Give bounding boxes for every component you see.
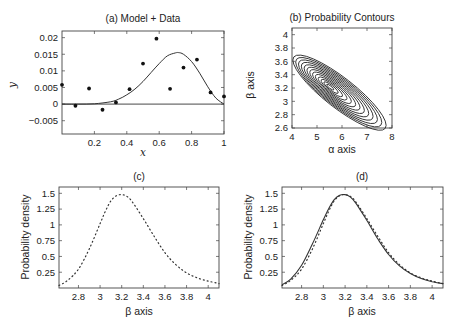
- y-tick-label: 0.005: [34, 82, 58, 93]
- y-tick-label: 3.8: [275, 42, 288, 53]
- x-tick-label: 3.4: [360, 291, 373, 302]
- dotted-density-curve: [59, 195, 219, 286]
- panel-c-ylabel: Probability density: [19, 194, 31, 280]
- x-tick-label: 0.8: [185, 137, 198, 148]
- y-tick-label: 0.75: [260, 235, 279, 246]
- panel-d-density-comparison: (d) 0.250.50.7511.251.5 2.833.23.43.63.8…: [242, 171, 443, 317]
- data-point: [195, 58, 199, 62]
- panel-d-yticks: 0.250.50.7511.251.5: [260, 188, 444, 278]
- contour-line: [285, 45, 395, 140]
- panel-c-yticks: 0.250.50.7511.251.5: [37, 188, 220, 278]
- y-tick-label: 0.02: [40, 32, 59, 43]
- y-tick-label: 0.5: [42, 251, 55, 262]
- data-point: [128, 87, 132, 91]
- y-tick-label: 1.5: [42, 188, 55, 199]
- data-point: [141, 62, 145, 66]
- panel-d-frame: [282, 187, 443, 288]
- x-tick-label: 4: [289, 131, 294, 142]
- panel-c-density: (c) 0.250.50.7511.251.5 2.833.23.43.63.8…: [19, 171, 219, 317]
- x-tick-label: 3.4: [137, 291, 150, 302]
- y-tick-label: 1.25: [37, 203, 56, 214]
- y-tick-label: 2.8: [275, 109, 288, 120]
- panel-a-frame: [62, 31, 224, 134]
- x-tick-label: 4: [206, 291, 211, 302]
- panel-b-probability-contours: (b) Probability Contours 2.62.833.23.43.…: [244, 12, 395, 155]
- y-tick-label: 3.2: [275, 82, 288, 93]
- panel-a-title: (a) Model + Data: [106, 13, 181, 24]
- y-tick-label: 1: [50, 219, 55, 230]
- panel-d-title: (d): [356, 171, 368, 182]
- figure-canvas: (a) Model + Data −0.00500.0050.010.0150.…: [0, 0, 455, 329]
- y-tick-label: −0.005: [29, 115, 58, 126]
- y-tick-label: 0.25: [260, 267, 279, 278]
- x-tick-label: 5: [314, 131, 319, 142]
- x-tick-label: 4: [429, 291, 434, 302]
- x-tick-label: 1: [221, 137, 226, 148]
- panel-b-title: (b) Probability Contours: [289, 12, 394, 23]
- x-tick-label: 3.6: [382, 291, 395, 302]
- data-point: [74, 104, 78, 108]
- panel-d-xticks: 2.833.23.43.63.84: [295, 187, 435, 302]
- panel-d-xlabel: β axis: [348, 305, 376, 317]
- x-tick-label: 6: [339, 131, 344, 142]
- panel-c-frame: [59, 187, 219, 288]
- y-tick-label: 0.01: [40, 65, 59, 76]
- solid-density-curve: [282, 194, 443, 284]
- y-tick-label: 2.6: [275, 122, 288, 133]
- panel-c-xticks: 2.833.23.43.63.84: [72, 187, 211, 302]
- y-tick-label: 4: [283, 29, 288, 40]
- contour-line: [298, 58, 374, 124]
- panel-a-xticks: 0.20.40.60.81: [88, 31, 227, 148]
- y-tick-label: 0.75: [37, 235, 56, 246]
- x-tick-label: 0.2: [88, 137, 101, 148]
- data-point: [101, 108, 105, 112]
- data-point: [60, 83, 64, 87]
- data-point: [222, 95, 226, 99]
- x-tick-label: 7: [364, 131, 369, 142]
- x-tick-label: 3: [321, 291, 326, 302]
- panel-a-data-points: [60, 37, 226, 112]
- data-point: [209, 91, 213, 95]
- contour-line: [288, 48, 389, 136]
- x-tick-label: 0.4: [120, 137, 133, 148]
- x-tick-label: 2.8: [295, 291, 308, 302]
- y-tick-label: 1.25: [260, 203, 279, 214]
- panel-a-yticks: −0.00500.0050.010.0150.02: [29, 32, 224, 126]
- panel-c-xlabel: β axis: [125, 305, 153, 317]
- x-tick-label: 3.8: [180, 291, 193, 302]
- dotted-density-curve: [282, 195, 443, 286]
- panel-b-contours: [285, 45, 395, 140]
- panel-a-xlabel: x: [140, 146, 146, 158]
- panel-d-ylabel: Probability density: [242, 194, 254, 280]
- y-tick-label: 3.6: [275, 56, 288, 67]
- data-point: [87, 87, 91, 91]
- data-point: [182, 66, 186, 70]
- y-tick-label: 1.5: [265, 188, 278, 199]
- panel-a-model-curve: [62, 52, 224, 104]
- data-point: [114, 101, 118, 105]
- panel-d-curves: [282, 194, 443, 285]
- panel-a-ylabel: y: [6, 81, 18, 89]
- x-tick-label: 3.2: [115, 291, 128, 302]
- x-tick-label: 3.8: [404, 291, 417, 302]
- y-tick-label: 3: [283, 96, 288, 107]
- y-tick-label: 3.4: [275, 69, 288, 80]
- data-point: [168, 87, 172, 91]
- panel-c-curves: [59, 195, 219, 286]
- x-tick-label: 2.8: [72, 291, 85, 302]
- x-tick-label: 3: [97, 291, 102, 302]
- y-tick-label: 1: [273, 219, 278, 230]
- x-tick-label: 3.2: [338, 291, 351, 302]
- x-tick-label: 3.6: [158, 291, 171, 302]
- data-point: [155, 37, 159, 41]
- y-tick-label: 0: [53, 98, 58, 109]
- panel-c-title: (c): [133, 171, 145, 182]
- y-tick-label: 0.015: [34, 49, 58, 60]
- x-tick-label: 0.6: [153, 137, 166, 148]
- panel-b-xlabel: α axis: [328, 143, 356, 155]
- y-tick-label: 0.5: [265, 251, 278, 262]
- panel-b-ylabel: β axis: [244, 71, 256, 99]
- panel-a-model-data: (a) Model + Data −0.00500.0050.010.0150.…: [6, 13, 227, 158]
- y-tick-label: 0.25: [37, 267, 56, 278]
- x-tick-label: 8: [389, 131, 394, 142]
